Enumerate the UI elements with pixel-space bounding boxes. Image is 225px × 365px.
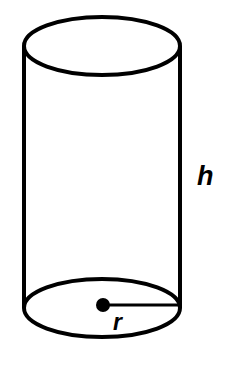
height-label: h: [197, 161, 214, 191]
cylinder-top-ellipse: [24, 17, 180, 75]
radius-label: r: [113, 309, 123, 335]
cylinder-figure: r h: [0, 0, 225, 365]
base-center-dot: [96, 298, 110, 312]
cylinder-diagram-canvas: r h: [0, 0, 225, 365]
